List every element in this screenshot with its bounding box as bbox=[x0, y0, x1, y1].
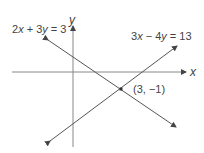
intersection-point bbox=[120, 88, 123, 91]
equation-label-2: 3x − 4y = 13 bbox=[131, 31, 192, 42]
equation-label-1: 2x + 3y = 3 bbox=[12, 24, 66, 35]
x-axis-label: x bbox=[190, 66, 196, 78]
intersection-label: (3, −1) bbox=[133, 84, 165, 95]
y-axis-label: y bbox=[69, 14, 75, 26]
